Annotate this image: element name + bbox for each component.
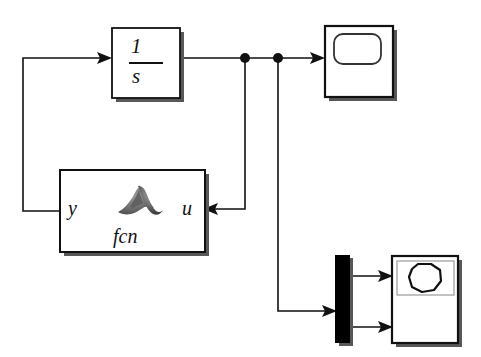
wire-branch-to-fcn-u <box>209 58 245 209</box>
xy-graph-block[interactable] <box>392 256 458 343</box>
integrator-denominator-label: s <box>132 66 140 87</box>
fcn-output-port-label-u: u <box>182 198 192 218</box>
mux-body[interactable] <box>335 255 350 343</box>
mux-block[interactable] <box>335 255 350 343</box>
xy-circle-trace-icon <box>409 264 441 292</box>
scope-block[interactable] <box>325 26 393 97</box>
fcn-name-label: fcn <box>113 226 137 246</box>
integrator-block[interactable] <box>112 28 180 98</box>
wire-branch-to-mux <box>278 58 330 311</box>
junction-dot-1 <box>240 53 250 63</box>
fcn-input-port-label-y: y <box>68 198 77 218</box>
junction-dot-2 <box>273 53 283 63</box>
diagram-svg <box>0 0 481 357</box>
diagram-canvas: 1 s y u fcn <box>0 0 481 357</box>
scope-screen-icon <box>334 34 381 64</box>
integrator-numerator-label: 1 <box>131 36 142 57</box>
